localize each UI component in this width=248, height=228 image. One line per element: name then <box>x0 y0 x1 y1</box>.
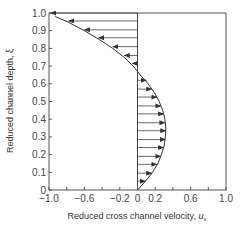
y-tick-label: 0.7 <box>32 61 46 72</box>
y-tick-label: 0.4 <box>32 114 46 125</box>
y-tick-label: 0.3 <box>32 131 46 142</box>
x-tick-label: 0.2 <box>148 193 162 204</box>
x-axis-label: Reduced cross channel velocity, ux <box>68 211 208 222</box>
y-tick-label: 0.6 <box>32 78 46 89</box>
y-tick-label: 0.5 <box>32 96 46 107</box>
x-tick-label: −0.2 <box>110 193 130 204</box>
x-tick-label: 1.0 <box>219 193 233 204</box>
y-tick-label: 0 <box>40 185 46 196</box>
y-tick-label: 0.9 <box>32 25 46 36</box>
y-tick-label: 1.0 <box>32 8 46 19</box>
x-tick-label: 0 <box>135 193 141 204</box>
y-axis-label: Reduced channel depth, ξ <box>5 49 15 153</box>
x-tick-label: −0.6 <box>75 193 95 204</box>
y-tick-label: 0.1 <box>32 167 46 178</box>
velocity-profile-chart: −1.0−0.6−0.200.20.61.0 00.10.20.30.40.50… <box>0 0 248 228</box>
y-tick-label: 0.8 <box>32 43 46 54</box>
velocity-arrows <box>51 13 166 181</box>
x-tick-label: 0.6 <box>184 193 198 204</box>
y-tick-label: 0.2 <box>32 149 46 160</box>
